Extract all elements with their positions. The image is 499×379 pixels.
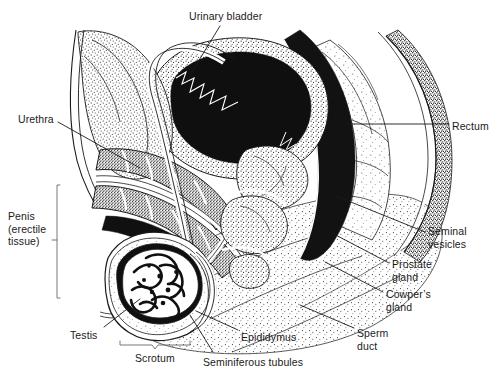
penis-bracket: [57, 185, 60, 298]
label-urethra: Urethra: [18, 113, 54, 126]
label-scrotum: Scrotum: [135, 352, 175, 365]
label-seminal-vesicles: Seminal vesicles: [428, 225, 467, 250]
label-urinary-bladder: Urinary bladder: [189, 10, 262, 23]
label-testis: Testis: [70, 329, 97, 342]
anatomy-figure: Urinary bladder Urethra Rectum Penis (er…: [0, 0, 499, 379]
label-sperm-duct: Sperm duct: [357, 327, 388, 352]
label-seminiferous-tubules: Seminiferous tubules: [203, 356, 303, 369]
label-penis-erectile-tissue: Penis (erectile tissue): [8, 210, 46, 248]
label-cowpers-gland: Cowper’s gland: [386, 288, 431, 313]
label-prostate-gland: Prostate gland: [392, 258, 432, 283]
label-epididymus: Epididymus: [241, 331, 296, 344]
label-rectum: Rectum: [452, 120, 489, 133]
anatomy-illustration: [0, 0, 499, 379]
